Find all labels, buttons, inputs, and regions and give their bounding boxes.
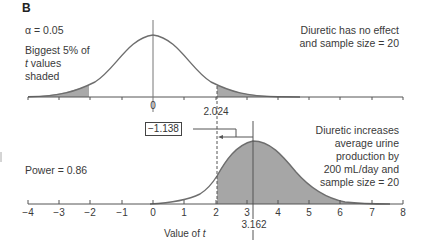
panel-label: B [22, 2, 31, 15]
alpha-text: α = 0.05 [25, 24, 63, 36]
shift-bracket [193, 129, 236, 137]
tick-label: 4 [275, 207, 281, 218]
x-axis-label-t: t [203, 228, 206, 239]
tick-label: −1 [116, 207, 127, 218]
tick-label: 6 [337, 207, 343, 218]
top-left-tail-shade [28, 85, 89, 97]
alternative-hypothesis-label: Diuretic increases average urine product… [316, 124, 399, 189]
null-hypothesis-label: Diuretic has no effect and sample size =… [299, 24, 399, 50]
shaded-note: Biggest 5% of t values shaded [25, 44, 90, 83]
alpha-label: α = 0.05 [25, 24, 63, 37]
tick-label: 8 [400, 207, 406, 218]
tick-label: 0 [150, 207, 156, 218]
shaded-note-line-2: t values [25, 57, 90, 70]
tick-label: −3 [53, 207, 64, 218]
values-text: values [28, 57, 61, 69]
power-label: Power = 0.86 [25, 164, 87, 177]
top-zero-tick-label: 0 [150, 100, 156, 111]
shift-value-box: −1.138 [145, 122, 182, 136]
tick-label: 7 [369, 207, 375, 218]
x-axis-label-text: Value of [164, 228, 203, 239]
tick-label: 3 [244, 207, 250, 218]
null-line-1: Diuretic has no effect [299, 24, 399, 37]
tick-label: 5 [306, 207, 312, 218]
alt-line-1: Diuretic increases [316, 124, 399, 137]
alt-line-4: 200 mL/day and [316, 163, 399, 176]
tick-label: 2 [213, 207, 219, 218]
tick-label: 1 [181, 207, 187, 218]
x-axis-label: Value of t [164, 227, 206, 240]
tick-label: −2 [84, 207, 95, 218]
critical-value-label: 2.024 [203, 106, 228, 117]
alt-line-5: sample size = 20 [316, 176, 399, 189]
null-line-2: and sample size = 20 [299, 37, 399, 50]
shaded-note-line-1: Biggest 5% of [25, 44, 90, 57]
shaded-note-line-3: shaded [25, 70, 90, 83]
tick-label: −4 [22, 207, 33, 218]
shift-arrow-head [218, 135, 223, 139]
alt-line-2: average urine [316, 137, 399, 150]
alt-line-3: production by [316, 150, 399, 163]
center-value-label: 3.162 [240, 219, 267, 230]
